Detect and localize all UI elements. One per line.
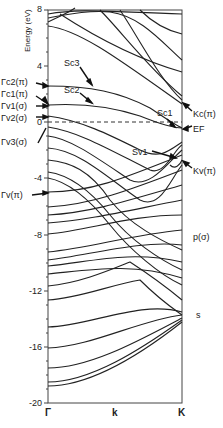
y-axis-label: Energy (eV)	[23, 9, 32, 52]
y-tick-minus8: -8	[22, 230, 42, 240]
y-tick-8: 8	[22, 4, 42, 14]
label-gamma-c1: Γc1(π)	[1, 89, 28, 99]
label-p-sigma: p(σ)	[193, 232, 210, 242]
label-gamma-v1: Γv1(σ)	[1, 101, 27, 111]
y-tick-minus12: -12	[22, 286, 42, 296]
y-tick-minus4: -4	[22, 173, 42, 183]
label-fermi-energy: EF	[193, 124, 205, 134]
label-sc3: Sc3	[64, 58, 80, 68]
y-tick-minus20: -20	[22, 398, 42, 408]
label-sc2: Sc2	[64, 85, 80, 95]
label-k-v-pi: Kv(π)	[193, 166, 216, 176]
y-axis-ticks	[44, 10, 48, 403]
label-gamma-v3: Γv3(σ)	[1, 137, 27, 147]
x-label-gamma: Γ	[45, 407, 51, 418]
label-gamma-c2: Γc2(π)	[1, 77, 28, 87]
label-s: s	[196, 310, 201, 320]
label-gamma-v2: Γv2(σ)	[1, 113, 27, 123]
label-k-c-pi: Kc(π)	[193, 109, 216, 119]
y-tick-minus16: -16	[22, 342, 42, 352]
y-tick-4: 4	[22, 61, 42, 71]
label-sc1: Sc1	[157, 108, 173, 118]
label-gamma-v-pi: Γv(π)	[1, 190, 23, 200]
label-sv1: Sv1	[132, 147, 148, 157]
x-label-k: k	[112, 407, 118, 418]
x-label-K: K	[178, 407, 185, 418]
